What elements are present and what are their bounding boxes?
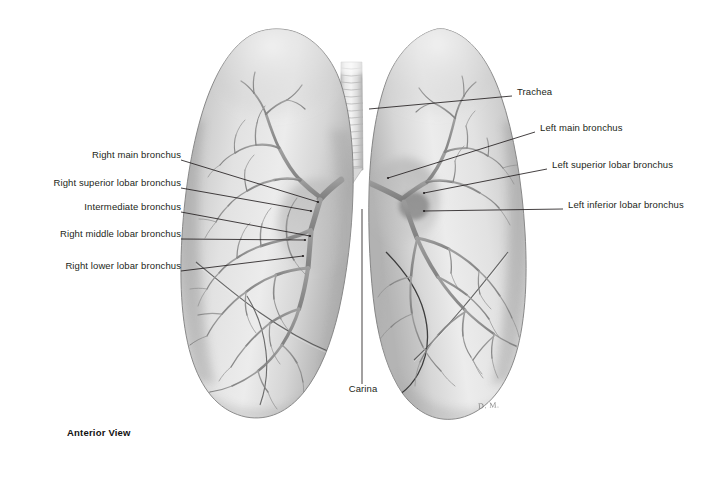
artist-signature: D. M. — [478, 400, 500, 410]
right-lung — [179, 20, 358, 420]
label-left-superior-lobar-bronchus: Left superior lobar bronchus — [552, 160, 673, 170]
left-lung — [363, 18, 527, 424]
label-left-main-bronchus: Left main bronchus — [540, 123, 623, 133]
label-intermediate-bronchus: Intermediate bronchus — [0, 202, 181, 212]
label-right-superior-lobar-bronchus: Right superior lobar bronchus — [0, 178, 181, 188]
label-right-lower-lobar-bronchus: Right lower lobar bronchus — [0, 261, 181, 271]
label-carina: Carina — [340, 384, 386, 394]
lung-anatomy-figure: Right main bronchus Right superior lobar… — [0, 0, 706, 489]
view-caption: Anterior View — [67, 427, 131, 438]
label-right-main-bronchus: Right main bronchus — [0, 150, 181, 160]
anatomy-illustration — [0, 0, 706, 489]
label-left-inferior-lobar-bronchus: Left inferior lobar bronchus — [568, 200, 684, 210]
label-right-middle-lobar-bronchus: Right middle lobar bronchus — [0, 229, 181, 239]
label-trachea: Trachea — [517, 87, 552, 97]
